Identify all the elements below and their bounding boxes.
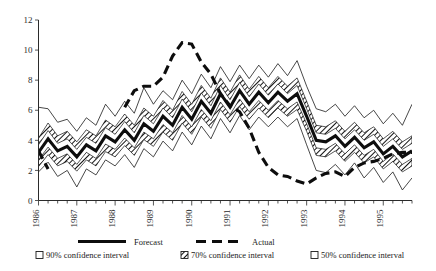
y-tick-label: 8: [28, 75, 33, 85]
fan-chart: 024681012 198619871988198919901991199219…: [0, 0, 436, 271]
legend-label-actual: Actual: [252, 237, 275, 247]
y-tick-label: 0: [28, 196, 33, 206]
band-90-upper-edge: [39, 61, 413, 132]
x-axis-labels: 1986198719881989199019911992199319941995: [31, 209, 386, 228]
x-tick-label: 1988: [107, 209, 117, 228]
chart-legend: Forecast Actual 90% confidence interval …: [36, 237, 405, 261]
y-tick-label: 2: [28, 166, 33, 176]
legend-marker-90ci: [36, 252, 43, 259]
x-tick-label: 1994: [337, 209, 347, 228]
legend-label-90ci: 90% confidence interval: [46, 250, 130, 260]
y-tick-label: 4: [28, 136, 33, 146]
legend-label-70ci: 70% confidence interval: [191, 250, 275, 260]
confidence-bands: [39, 61, 413, 190]
x-tick-label: 1993: [299, 209, 309, 228]
x-tick-label: 1987: [69, 209, 79, 228]
legend-label-50ci: 50% confidence interval: [321, 250, 405, 260]
y-tick-label: 6: [28, 105, 33, 115]
chart-canvas: 024681012 198619871988198919901991199219…: [0, 0, 436, 271]
x-tick-label: 1995: [375, 209, 385, 228]
x-axis-ticks: [39, 201, 413, 206]
y-tick-label: 10: [24, 45, 34, 55]
y-tick-label: 12: [24, 15, 33, 25]
legend-marker-50ci: [311, 252, 318, 259]
y-axis-ticks: 024681012: [24, 15, 39, 206]
x-tick-label: 1989: [145, 209, 155, 228]
x-tick-label: 1991: [222, 210, 232, 228]
x-tick-label: 1986: [31, 209, 41, 228]
x-tick-label: 1992: [260, 210, 270, 228]
legend-label-forecast: Forecast: [134, 237, 163, 247]
legend-marker-70ci: [181, 252, 188, 259]
x-tick-label: 1990: [184, 209, 194, 228]
